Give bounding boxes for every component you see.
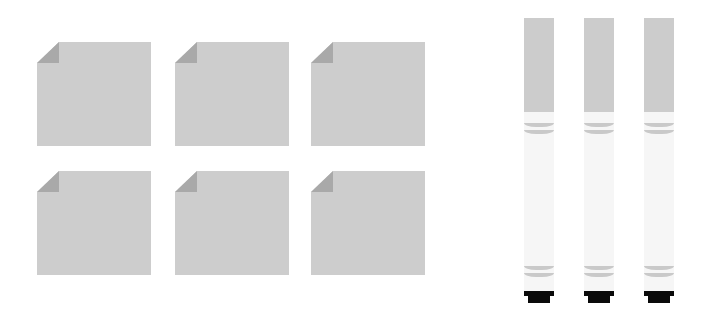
- marker-body: [644, 112, 674, 291]
- marker-body: [524, 112, 554, 291]
- marker-icon[interactable]: [584, 18, 614, 303]
- marker-cap: [644, 18, 674, 112]
- folded-corner-icon: [37, 171, 59, 192]
- marker-tip: [528, 296, 550, 303]
- marker-icon[interactable]: [644, 18, 674, 303]
- folded-corner-icon: [37, 42, 59, 63]
- marker-cap: [524, 18, 554, 112]
- marker-icon[interactable]: [524, 18, 554, 303]
- folded-corner-icon: [311, 171, 333, 192]
- folded-corner-icon: [311, 42, 333, 63]
- marker-tip: [648, 296, 670, 303]
- marker-cap: [584, 18, 614, 112]
- marker-body: [584, 112, 614, 291]
- folded-corner-icon: [175, 171, 197, 192]
- marker-tip: [588, 296, 610, 303]
- folded-corner-icon: [175, 42, 197, 63]
